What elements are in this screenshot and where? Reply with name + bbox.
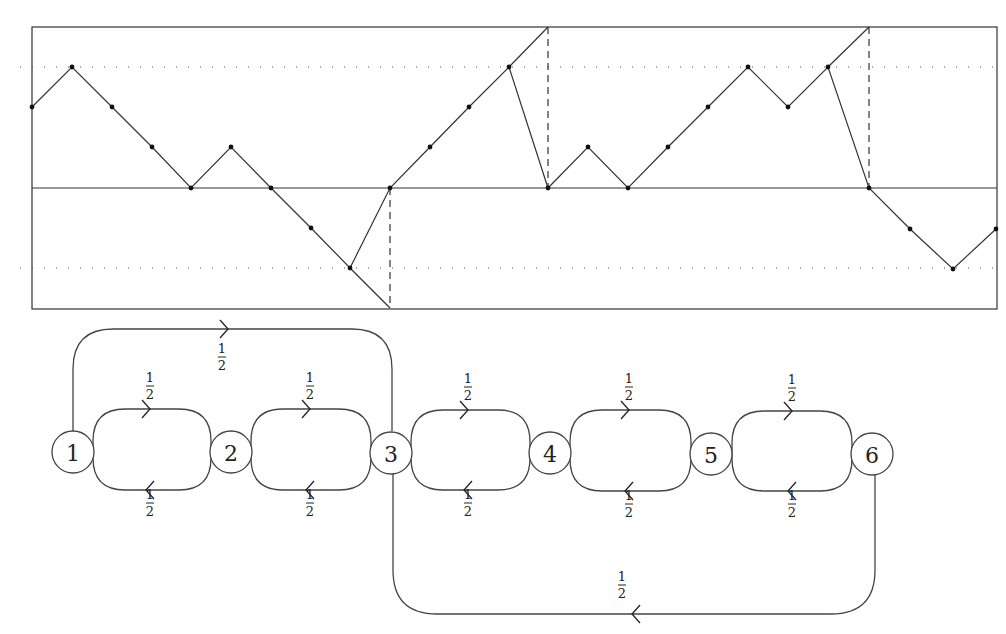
svg-text:1: 1: [146, 370, 154, 385]
path-vertex-dot: [388, 186, 393, 191]
markov-chain-panel: 121212121212121212121212123456: [52, 320, 893, 623]
svg-text:2: 2: [218, 358, 226, 373]
prob-label-1-to-2: 12: [146, 370, 154, 402]
prob-label-3-to-4: 12: [464, 371, 472, 403]
path-vertex-dot: [189, 186, 194, 191]
svg-text:1: 1: [788, 372, 796, 387]
path-extension-segment: [350, 268, 390, 308]
state-node-5: 5: [690, 433, 732, 475]
lattice-path: [32, 67, 996, 269]
prob-label-4-to-3: 12: [464, 487, 472, 519]
state-node-1: 1: [52, 431, 94, 473]
svg-text:1: 1: [625, 488, 633, 503]
svg-text:1: 1: [618, 569, 626, 584]
path-vertex-dot: [951, 267, 956, 272]
path-vertex-dot: [150, 145, 155, 150]
path-vertex-dot: [746, 65, 751, 70]
state-node-3: 3: [370, 432, 412, 474]
svg-text:1: 1: [306, 370, 314, 385]
path-extension-segment: [828, 27, 869, 67]
path-vertex-dot: [269, 186, 274, 191]
transition-loop-2-3: [251, 409, 371, 490]
svg-text:1: 1: [788, 488, 796, 503]
svg-text:2: 2: [618, 586, 626, 601]
path-vertex-dot: [626, 186, 631, 191]
path-vertex-dot: [348, 266, 353, 271]
state-label: 1: [66, 441, 80, 466]
plot-frame: [32, 27, 997, 309]
lattice-path-panel: [20, 27, 998, 309]
path-extension-segment: [509, 27, 548, 67]
state-label: 3: [384, 442, 398, 467]
svg-text:1: 1: [625, 371, 633, 386]
transition-loop-5-6: [732, 411, 852, 491]
transition-loop-3-4: [411, 410, 530, 490]
path-vertex-dot: [826, 65, 831, 70]
prob-label-2-to-3: 12: [306, 370, 314, 402]
path-vertex-dot: [229, 145, 234, 150]
path-vertex-dot: [666, 145, 671, 150]
svg-text:2: 2: [788, 389, 796, 404]
path-vertex-dot: [706, 105, 711, 110]
path-vertex-dot: [507, 65, 512, 70]
state-label: 2: [224, 441, 238, 466]
svg-text:1: 1: [464, 487, 472, 502]
svg-text:2: 2: [146, 504, 154, 519]
prob-label-3-to-2: 12: [306, 487, 314, 519]
svg-text:2: 2: [146, 387, 154, 402]
state-node-6: 6: [851, 433, 893, 475]
path-vertex-dot: [428, 145, 433, 150]
state-node-2: 2: [210, 431, 252, 473]
prob-label-5-to-4: 12: [625, 488, 633, 520]
path-vertex-dot: [70, 65, 75, 70]
state-label: 5: [704, 443, 718, 468]
path-vertex-dot: [467, 105, 472, 110]
prob-label-5-to-6: 12: [788, 372, 796, 404]
svg-text:1: 1: [464, 371, 472, 386]
path-vertex-dot: [908, 227, 913, 232]
path-vertex-dot: [867, 186, 872, 191]
svg-text:2: 2: [306, 504, 314, 519]
figure-canvas: 121212121212121212121212123456: [0, 0, 1006, 634]
state-label: 6: [865, 443, 879, 468]
svg-text:1: 1: [218, 341, 226, 356]
path-vertex-dot: [994, 227, 999, 232]
prob-label-2-to-1: 12: [146, 487, 154, 519]
path-vertex-dot: [30, 105, 35, 110]
svg-text:2: 2: [625, 505, 633, 520]
path-vertex-dot: [586, 145, 591, 150]
path-vertex-dot: [546, 186, 551, 191]
prob-label-1-to-3: 12: [218, 341, 226, 373]
transition-loop-4-5: [570, 410, 691, 491]
svg-text:1: 1: [306, 487, 314, 502]
svg-text:1: 1: [146, 487, 154, 502]
path-vertex-dot: [110, 105, 115, 110]
svg-text:2: 2: [788, 505, 796, 520]
prob-label-4-to-5: 12: [625, 371, 633, 403]
transition-loop-1-2: [93, 409, 211, 490]
svg-text:2: 2: [306, 387, 314, 402]
state-node-4: 4: [529, 432, 571, 474]
path-vertex-dot: [786, 105, 791, 110]
prob-label-6-to-5: 12: [788, 488, 796, 520]
prob-label-6-to-3: 12: [618, 569, 626, 601]
svg-text:2: 2: [464, 388, 472, 403]
svg-text:2: 2: [625, 388, 633, 403]
svg-text:2: 2: [464, 504, 472, 519]
path-vertex-dot: [309, 226, 314, 231]
transition-edge-1-to-3: [73, 329, 392, 431]
state-label: 4: [543, 442, 557, 467]
